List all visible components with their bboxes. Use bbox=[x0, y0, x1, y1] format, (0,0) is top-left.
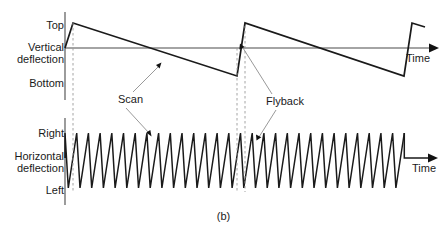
vertical-top-label: Top bbox=[0, 19, 64, 31]
horizontal-axis-label-line1: Horizontal bbox=[0, 150, 64, 162]
scan-leader-to-vertical bbox=[133, 66, 159, 92]
vertical-bottom-label: Bottom bbox=[0, 77, 64, 89]
flyback-leader-to-horizontal bbox=[259, 110, 276, 137]
figure-caption: (b) bbox=[0, 210, 447, 222]
vertical-panel-time-arrowhead bbox=[429, 44, 439, 53]
scan-annotation-label: Scan bbox=[118, 93, 143, 105]
flyback-annotation-label: Flyback bbox=[266, 95, 304, 107]
vertical-deflection-panel bbox=[65, 12, 439, 100]
horizontal-sawtooth-trace bbox=[65, 133, 404, 188]
vertical-time-label: Time bbox=[406, 52, 430, 64]
scan-arrowhead-vertical bbox=[156, 63, 162, 69]
flyback-leader-to-vertical bbox=[243, 48, 272, 94]
vertical-axis-label-line1: Vertical bbox=[0, 41, 64, 53]
deflection-waveform-figure: Top Vertical deflection Bottom Time Righ… bbox=[0, 0, 447, 235]
horizontal-left-label: Left bbox=[0, 184, 64, 196]
scan-leader-to-horizontal bbox=[126, 108, 149, 133]
horizontal-panel-time-axis bbox=[404, 133, 430, 158]
horizontal-deflection-panel bbox=[65, 118, 438, 205]
horizontal-right-label: Right bbox=[0, 127, 64, 139]
waveform-diagram-svg bbox=[0, 0, 447, 235]
horizontal-axis-label-line2: deflection bbox=[0, 162, 64, 174]
vertical-axis-label-line2: deflection bbox=[0, 53, 64, 65]
horizontal-time-label: Time bbox=[412, 162, 436, 174]
